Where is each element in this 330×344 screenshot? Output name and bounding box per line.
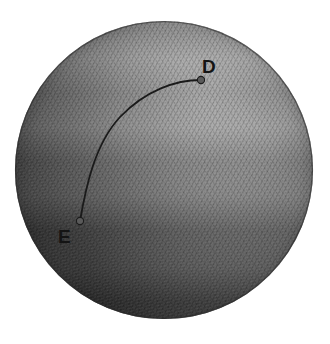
figure-container: D E: [0, 0, 330, 344]
point-e-label: E: [58, 226, 71, 247]
point-d-label: D: [202, 56, 216, 77]
point-e-marker: [76, 217, 83, 224]
point-d-marker: [197, 76, 204, 83]
sphere-diagram: D E: [0, 0, 330, 344]
